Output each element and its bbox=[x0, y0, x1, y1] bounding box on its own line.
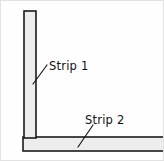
strip-1-label: Strip 1 bbox=[49, 59, 88, 73]
drawing-canvas: Strip 1 Strip 2 bbox=[1, 1, 164, 161]
strip-2-label: Strip 2 bbox=[85, 113, 124, 127]
vertical-strip-shape bbox=[24, 11, 36, 138]
horizontal-strip-shape bbox=[23, 137, 164, 151]
technical-drawing-figure: Strip 1 Strip 2 bbox=[0, 0, 164, 161]
